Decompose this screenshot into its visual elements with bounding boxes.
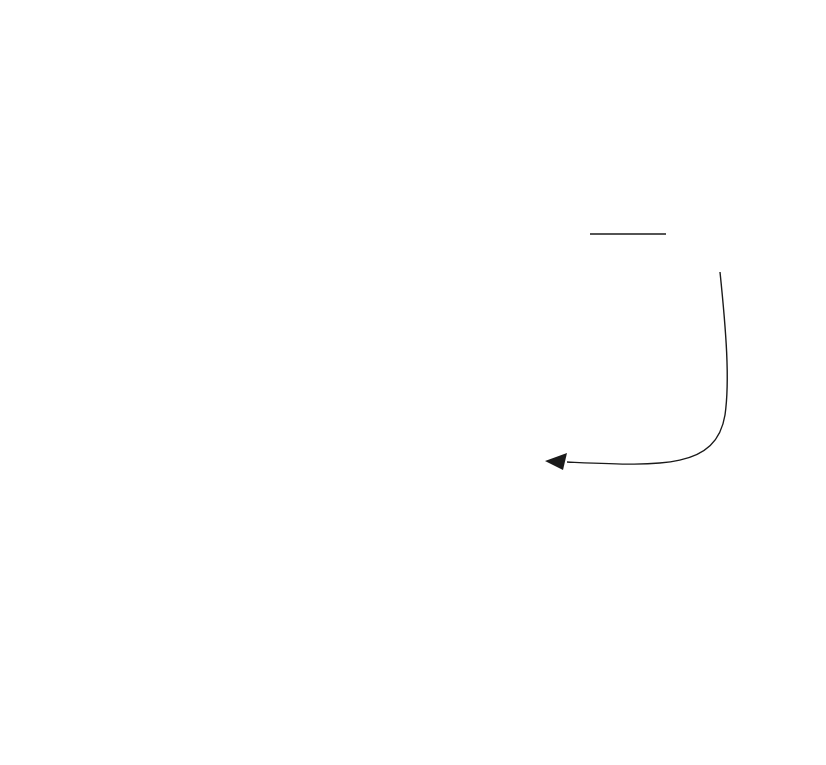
arrowhead-icon xyxy=(545,453,567,470)
annotation-arrow-curve xyxy=(567,272,727,464)
figure xyxy=(0,0,826,765)
